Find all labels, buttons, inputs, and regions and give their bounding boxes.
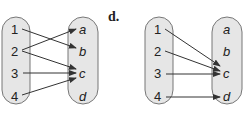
codomain-a: a [79,22,86,37]
domain-2: 2 [11,44,18,59]
codomain-a: a [223,22,230,37]
codomain-b: b [223,44,230,59]
mapping-diagrams: 1 2 3 4 a b c d d. 1 2 3 4 a b c d [0,0,245,115]
diagram-1: 1 2 3 4 a b c d [2,17,98,104]
domain-4: 4 [11,89,18,104]
codomain-d: d [223,89,231,104]
domain-4: 4 [154,89,161,104]
domain-2: 2 [154,44,161,59]
domain-1: 1 [154,22,161,37]
domain-1: 1 [11,22,18,37]
codomain-d: d [79,89,87,104]
domain-3: 3 [154,66,161,81]
part-label: d. [108,9,119,24]
codomain-b: b [79,44,86,59]
codomain-c: c [223,66,230,81]
codomain-c: c [79,66,86,81]
domain-3: 3 [11,66,18,81]
diagram-2: 1 2 3 4 a b c d [145,17,242,104]
